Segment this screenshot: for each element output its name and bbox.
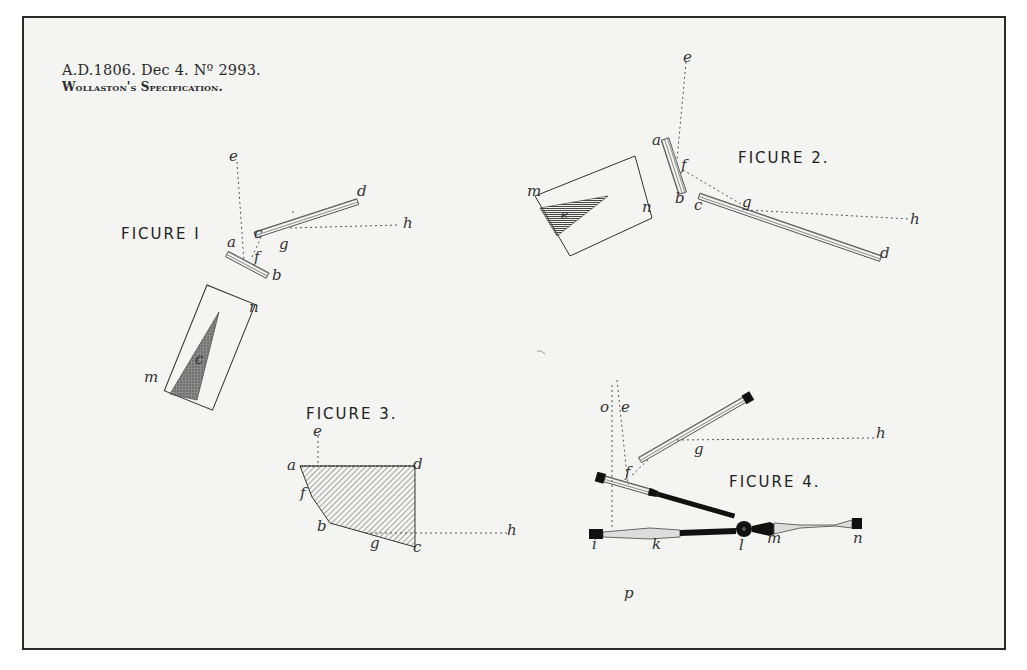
figure-1-label-m: m bbox=[144, 368, 158, 386]
figure-4-label-g: g bbox=[694, 440, 704, 458]
figure-1-label-c: c bbox=[254, 224, 263, 242]
figure-3-label-c: c bbox=[413, 538, 422, 556]
figure-4-label-i: i bbox=[592, 535, 597, 553]
figure-2-label-g: g bbox=[742, 193, 752, 211]
figure-2-label-m: m bbox=[527, 182, 541, 200]
figure-3-label-h: h bbox=[507, 521, 517, 539]
figure-1-label-b: b bbox=[272, 266, 282, 284]
figure-3: FICURE 3. e a d f b g c h bbox=[287, 405, 517, 556]
figure-3-title: FICURE 3. bbox=[306, 405, 397, 423]
figure-4-label-e: e bbox=[621, 398, 630, 416]
figure-3-label-a: a bbox=[287, 456, 296, 474]
figure-2: FICURE 2. e a f b c g h d m n e bbox=[527, 48, 920, 262]
figure-2-label-n: n bbox=[642, 198, 652, 216]
figure-4-title: FICURE 4. bbox=[729, 473, 820, 491]
figure-2-title: FICURE 2. bbox=[738, 149, 829, 167]
figure-2-label-e: e bbox=[683, 48, 692, 66]
figure-3-label-f: f bbox=[299, 484, 308, 502]
figure-1-label-prism-c: c bbox=[195, 350, 204, 368]
figure-1-label-h: h bbox=[403, 214, 413, 232]
figure-4-label-m: m bbox=[767, 529, 781, 547]
stray-mark bbox=[537, 351, 545, 354]
figure-2-label-c: c bbox=[694, 196, 703, 214]
figure-1-label-a: a bbox=[227, 233, 236, 251]
figure-4-label-o: o bbox=[600, 398, 609, 416]
figure-1-label-n: n bbox=[249, 298, 259, 316]
patent-drawing: FICURE I e d h c g a f b n m c FICURE bbox=[0, 0, 1027, 670]
figure-4-label-f: f bbox=[624, 463, 633, 481]
figure-1-label-d: d bbox=[357, 182, 367, 200]
figure-4-label-n: n bbox=[853, 529, 863, 547]
figure-2-label-h: h bbox=[910, 210, 920, 228]
figure-1-title: FICURE I bbox=[121, 225, 201, 243]
figure-2-label-b: b bbox=[675, 189, 685, 207]
figure-3-label-g: g bbox=[370, 534, 380, 552]
figure-4-label-k: k bbox=[652, 535, 661, 553]
figure-2-label-prism-e: e bbox=[561, 208, 568, 222]
figure-3-label-d: d bbox=[413, 455, 423, 473]
figure-1-label-e: e bbox=[229, 147, 238, 165]
figure-4-label-p: p bbox=[624, 584, 634, 602]
figure-3-label-b: b bbox=[317, 517, 327, 535]
figure-1-label-g: g bbox=[279, 235, 289, 253]
figure-3-label-e: e bbox=[313, 422, 322, 440]
figure-1-label-f: f bbox=[253, 248, 262, 266]
figure-2-label-d: d bbox=[880, 244, 890, 262]
figure-4-label-h: h bbox=[876, 424, 886, 442]
figure-4-label-l: l bbox=[739, 536, 744, 554]
figure-1: FICURE I e d h c g a f b n m c bbox=[121, 147, 413, 410]
figure-2-label-a: a bbox=[652, 131, 661, 149]
figure-2-label-f: f bbox=[680, 156, 689, 174]
figure-4: FICURE 4. o e f g h bbox=[589, 380, 886, 602]
